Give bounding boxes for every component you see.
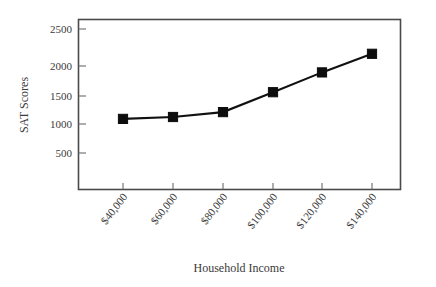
data-point-marker — [268, 88, 277, 97]
x-axis-title: Household Income — [194, 261, 285, 275]
y-tick-label-1000: 1000 — [50, 118, 73, 130]
chart-figure: 2500 2000 1500 1000 500 $40,000 $60,000 … — [0, 0, 436, 287]
data-point-marker — [317, 68, 326, 77]
data-point-marker — [168, 112, 177, 121]
data-point-marker — [367, 49, 376, 58]
line-chart-svg: 2500 2000 1500 1000 500 $40,000 $60,000 … — [0, 0, 436, 287]
data-point-marker — [218, 108, 227, 117]
data-point-marker — [118, 114, 127, 123]
chart-background — [0, 0, 436, 287]
y-tick-label-500: 500 — [56, 147, 73, 159]
y-axis-title: SAT Scores — [17, 77, 31, 133]
y-tick-label-2000: 2000 — [50, 60, 73, 72]
y-tick-label-1500: 1500 — [50, 90, 73, 102]
y-tick-label-2500: 2500 — [50, 23, 73, 35]
